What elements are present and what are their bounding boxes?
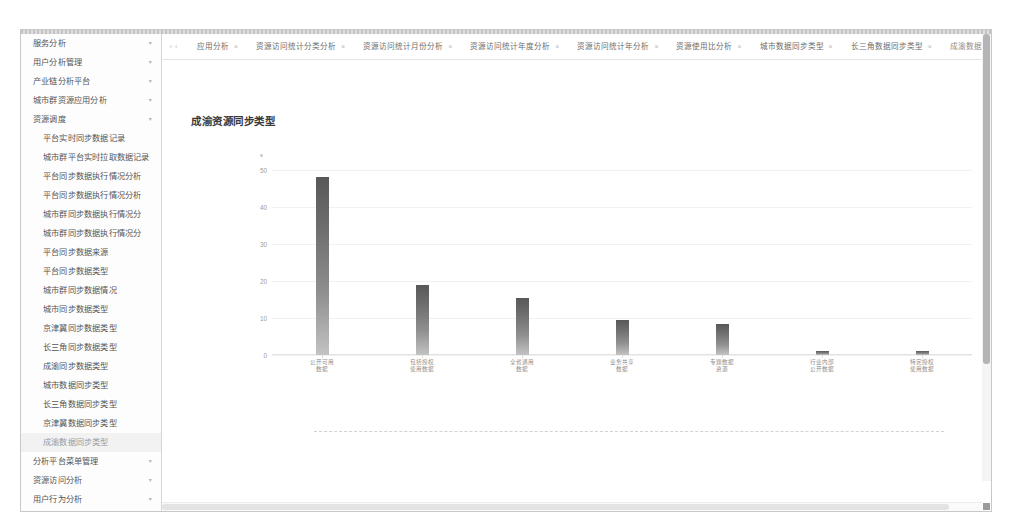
bar-2[interactable]: [516, 298, 529, 355]
chevron-down-icon[interactable]: ▾: [149, 471, 152, 490]
chevron-down-icon[interactable]: ▾: [149, 452, 152, 471]
bar-4[interactable]: [716, 324, 729, 355]
sidebar-item-2[interactable]: 产业链分析平台▾: [21, 72, 161, 91]
sidebar-item-8[interactable]: 平台同步数据执行情况分析: [21, 186, 161, 205]
y-axis-tick-label-1: 10: [260, 315, 267, 322]
sidebar-item-18[interactable]: 城市数据同步类型: [21, 376, 161, 395]
sidebar-item-10[interactable]: 城市群同步数据执行情况分: [21, 224, 161, 243]
sidebar-item-label: 京津冀数据同步类型: [43, 419, 117, 428]
content-area: ‹‹应用分析×资源访问统计分类分析×资源访问统计月份分析×资源访问统计年度分析×…: [162, 34, 991, 511]
sidebar-item-14[interactable]: 城市同步数据类型: [21, 300, 161, 319]
bar-slot-0[interactable]: 公开可用数据: [272, 177, 372, 355]
close-icon[interactable]: ×: [829, 43, 833, 50]
bar-slot-4[interactable]: 专题数据资源: [672, 324, 772, 355]
chevron-down-icon[interactable]: ▾: [149, 490, 152, 509]
horizontal-scrollbar[interactable]: [162, 502, 982, 511]
sidebar-item-0[interactable]: 服务分析▾: [21, 34, 161, 53]
vertical-scrollbar[interactable]: [982, 34, 991, 481]
sidebar-item-19[interactable]: 长三角数据同步类型: [21, 395, 161, 414]
sidebar-item-4[interactable]: 资源调度▾: [21, 110, 161, 129]
sidebar-item-label: 成渝数据同步类型: [43, 438, 109, 447]
vertical-scrollbar-thumb[interactable]: [983, 34, 990, 364]
chart-card: 成渝资源同步类型 01020304050公开可用数据包括授权使用数据全省通用数据…: [162, 60, 991, 440]
sidebar-item-label: 城市群资源应用分析: [33, 96, 107, 105]
sidebar-item-label: 京津冀同步数据类型: [43, 324, 117, 333]
sidebar-item-23[interactable]: 资源访问分析▾: [21, 471, 161, 490]
sidebar-nav[interactable]: 服务分析▾用户分析管理▾产业链分析平台▾城市群资源应用分析▾资源调度▾平台实时同…: [21, 34, 162, 512]
sidebar-item-label: 平台实时同步数据记录: [43, 134, 125, 143]
close-icon[interactable]: ×: [234, 43, 238, 50]
sidebar-item-25[interactable]: 用户访问实时分析▾: [21, 509, 161, 512]
close-icon[interactable]: ×: [737, 43, 741, 50]
y-gridline-4: [272, 207, 972, 208]
chevron-down-icon[interactable]: ▾: [149, 91, 152, 110]
sidebar-item-22[interactable]: 分析平台菜单管理▾: [21, 452, 161, 471]
tab-label: 资源访问统计年分析: [577, 42, 649, 51]
bar-slot-6[interactable]: 特定授权使用数据: [872, 351, 972, 355]
sidebar-item-15[interactable]: 京津冀同步数据类型: [21, 319, 161, 338]
tab-7[interactable]: 长三角数据同步类型×: [842, 34, 941, 59]
bar-3[interactable]: [616, 320, 629, 355]
tab-2[interactable]: 资源访问统计月份分析×: [354, 34, 461, 59]
tab-0[interactable]: 应用分析×: [188, 34, 247, 59]
x-axis-label-6: 特定授权使用数据: [910, 359, 934, 372]
tab-6[interactable]: 城市数据同步类型×: [751, 34, 842, 59]
x-axis-tickmark-1: [422, 355, 423, 358]
sidebar-item-11[interactable]: 平台同步数据来源: [21, 243, 161, 262]
close-icon[interactable]: ×: [448, 43, 452, 50]
sidebar-item-label: 城市数据同步类型: [43, 381, 109, 390]
sidebar-item-label: 平台同步数据来源: [43, 248, 109, 257]
tab-1[interactable]: 资源访问统计分类分析×: [247, 34, 354, 59]
sidebar-item-label: 城市同步数据类型: [43, 305, 109, 314]
sidebar-item-17[interactable]: 成渝同步数据类型: [21, 357, 161, 376]
close-icon[interactable]: ×: [341, 43, 345, 50]
chevron-down-icon[interactable]: ▾: [149, 509, 152, 512]
sidebar-item-label: 城市群同步数据执行情况分: [43, 229, 141, 238]
sidebar-item-label: 平台同步数据执行情况分析: [43, 172, 141, 181]
sidebar-item-16[interactable]: 长三角同步数据类型: [21, 338, 161, 357]
sidebar-item-5[interactable]: 平台实时同步数据记录: [21, 129, 161, 148]
x-axis-label-5: 行业内部公开数据: [810, 359, 834, 372]
sidebar-item-7[interactable]: 平台同步数据执行情况分析: [21, 167, 161, 186]
sidebar-item-20[interactable]: 京津冀数据同步类型: [21, 414, 161, 433]
bar-slot-1[interactable]: 包括授权使用数据: [372, 285, 472, 355]
tab-5[interactable]: 资源使用比分析×: [667, 34, 750, 59]
tab-label: 资源访问统计分类分析: [256, 42, 336, 51]
sidebar-item-12[interactable]: 平台同步数据类型: [21, 262, 161, 281]
chevron-down-icon[interactable]: ▾: [149, 34, 152, 53]
sidebar-item-label: 成渝同步数据类型: [43, 362, 109, 371]
sidebar-item-13[interactable]: 城市群同步数据情况: [21, 281, 161, 300]
x-axis-label-2: 全省通用数据: [510, 359, 534, 372]
sidebar-item-1[interactable]: 用户分析管理▾: [21, 53, 161, 72]
sidebar-item-label: 服务分析: [33, 39, 66, 48]
tab-scroll-left-icon[interactable]: ‹‹: [162, 34, 188, 59]
tab-bar[interactable]: ‹‹应用分析×资源访问统计分类分析×资源访问统计月份分析×资源访问统计年度分析×…: [162, 34, 991, 60]
resize-corner[interactable]: [983, 503, 990, 510]
sidebar-item-label: 分析平台菜单管理: [33, 457, 99, 466]
chevron-down-icon[interactable]: ▾: [149, 53, 152, 72]
chevron-down-icon[interactable]: ▾: [149, 110, 152, 129]
tab-4[interactable]: 资源访问统计年分析×: [568, 34, 667, 59]
close-icon[interactable]: ×: [555, 43, 559, 50]
bar-slot-2[interactable]: 全省通用数据: [472, 298, 572, 355]
x-axis-tickmark-6: [922, 355, 923, 358]
app-window: 服务分析▾用户分析管理▾产业链分析平台▾城市群资源应用分析▾资源调度▾平台实时同…: [20, 29, 992, 512]
sidebar-item-3[interactable]: 城市群资源应用分析▾: [21, 91, 161, 110]
y-axis-tick-label-4: 40: [260, 204, 267, 211]
bar-slot-5[interactable]: 行业内部公开数据: [772, 351, 872, 355]
bar-chart-plot: 01020304050公开可用数据包括授权使用数据全省通用数据业务共享数据专题数…: [272, 170, 972, 355]
horizontal-scrollbar-thumb[interactable]: [162, 504, 949, 510]
y-gridline-5: [272, 170, 972, 171]
sidebar-item-21[interactable]: 成渝数据同步类型: [21, 433, 161, 452]
sidebar-item-label: 用户行为分析: [33, 495, 82, 504]
close-icon[interactable]: ×: [654, 43, 658, 50]
bar-0[interactable]: [316, 177, 329, 355]
sidebar-item-6[interactable]: 城市群平台实时拉取数据记录: [21, 148, 161, 167]
tab-3[interactable]: 资源访问统计年度分析×: [461, 34, 568, 59]
bar-slot-3[interactable]: 业务共享数据: [572, 320, 672, 355]
sidebar-item-24[interactable]: 用户行为分析▾: [21, 490, 161, 509]
bar-1[interactable]: [416, 285, 429, 355]
close-icon[interactable]: ×: [928, 43, 932, 50]
sidebar-item-9[interactable]: 城市群同步数据执行情况分: [21, 205, 161, 224]
chevron-down-icon[interactable]: ▾: [149, 72, 152, 91]
